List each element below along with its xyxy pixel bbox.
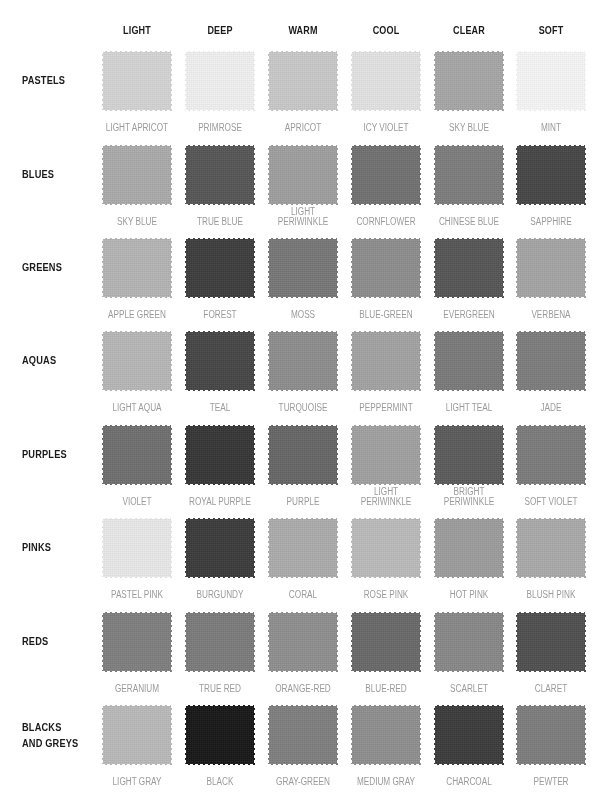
swatch-name: CORAL xyxy=(266,590,340,600)
pinked-edge-left xyxy=(101,144,104,206)
pinked-edge-right xyxy=(502,611,505,673)
swatch-name: LIGHT AQUA xyxy=(100,403,174,413)
swatch-texture xyxy=(433,50,505,112)
swatch-texture xyxy=(515,50,587,112)
color-swatch xyxy=(184,50,256,112)
color-swatch xyxy=(515,424,587,486)
swatch-texture xyxy=(350,50,422,112)
color-swatch xyxy=(184,330,256,392)
pinked-edge-right xyxy=(419,330,422,392)
color-swatch xyxy=(515,144,587,206)
swatch-texture xyxy=(515,330,587,392)
pinked-edge-left xyxy=(184,517,187,579)
swatch-texture xyxy=(350,704,422,766)
swatch-texture xyxy=(101,330,173,392)
color-swatch xyxy=(184,517,256,579)
swatch-texture xyxy=(350,237,422,299)
color-swatch xyxy=(350,611,422,673)
swatch-fabric xyxy=(433,424,505,486)
pinked-edge-right xyxy=(502,330,505,392)
pinked-edge-left xyxy=(101,517,104,579)
pinked-edge-left xyxy=(184,611,187,673)
color-swatch xyxy=(433,144,505,206)
swatch-name: LIGHT GRAY xyxy=(100,777,174,787)
swatch-fabric xyxy=(433,704,505,766)
pinked-edge-left xyxy=(101,237,104,299)
pinked-edge-right xyxy=(336,144,339,206)
row-label: AQUAS xyxy=(22,352,89,368)
color-swatch xyxy=(350,50,422,112)
pinked-edge-left xyxy=(515,704,518,766)
pinked-edge-left xyxy=(350,424,353,486)
swatch-name: TURQUOISE xyxy=(266,403,340,413)
pinked-edge-left xyxy=(101,50,104,112)
pinked-edge-left xyxy=(101,330,104,392)
pinked-edge-right xyxy=(419,237,422,299)
swatch-name: PEWTER xyxy=(514,777,588,787)
pinked-edge-right xyxy=(253,144,256,206)
pinked-edge-right xyxy=(253,611,256,673)
swatch-name: PURPLE xyxy=(266,497,340,507)
swatch-name: CHINESE BLUE xyxy=(432,217,506,227)
pinked-edge-left xyxy=(350,704,353,766)
swatch-name: CLARET xyxy=(514,684,588,694)
pinked-edge-right xyxy=(336,704,339,766)
pinked-edge-right xyxy=(502,517,505,579)
swatch-texture xyxy=(433,424,505,486)
color-swatch xyxy=(267,144,339,206)
pinked-edge-right xyxy=(584,517,587,579)
pinked-edge-right xyxy=(336,50,339,112)
pinked-edge-left xyxy=(350,611,353,673)
swatch-fabric xyxy=(350,611,422,673)
color-swatch xyxy=(515,611,587,673)
swatch-fabric xyxy=(267,704,339,766)
swatch-fabric xyxy=(101,517,173,579)
column-header-5: CLEAR xyxy=(439,24,498,36)
pinked-edge-left xyxy=(350,517,353,579)
swatch-texture xyxy=(433,517,505,579)
row-label: BLUES xyxy=(22,166,89,182)
swatch-name: MINT xyxy=(514,123,588,133)
swatch-texture xyxy=(267,144,339,206)
pinked-edge-left xyxy=(267,704,270,766)
swatch-texture xyxy=(101,144,173,206)
pinked-edge-right xyxy=(170,330,173,392)
pinked-edge-left xyxy=(433,237,436,299)
swatch-texture xyxy=(515,424,587,486)
color-swatch xyxy=(433,50,505,112)
swatch-name: BLUSH PINK xyxy=(514,590,588,600)
swatch-name: SOFT VIOLET xyxy=(514,497,588,507)
color-swatch xyxy=(267,50,339,112)
swatch-texture xyxy=(267,704,339,766)
pinked-edge-right xyxy=(419,50,422,112)
swatch-name: BRIGHT PERIWINKLE xyxy=(432,487,506,507)
swatch-fabric xyxy=(350,517,422,579)
pinked-edge-left xyxy=(433,330,436,392)
pinked-edge-right xyxy=(502,50,505,112)
pinked-edge-left xyxy=(515,611,518,673)
swatch-fabric xyxy=(515,704,587,766)
swatch-fabric xyxy=(267,144,339,206)
color-swatch xyxy=(267,611,339,673)
swatch-fabric xyxy=(433,144,505,206)
color-swatch xyxy=(515,704,587,766)
swatch-fabric xyxy=(101,50,173,112)
color-swatch xyxy=(350,144,422,206)
pinked-edge-right xyxy=(170,50,173,112)
pinked-edge-right xyxy=(170,611,173,673)
pinked-edge-right xyxy=(253,517,256,579)
swatch-fabric xyxy=(433,50,505,112)
color-swatch xyxy=(101,144,173,206)
swatch-texture xyxy=(433,330,505,392)
swatch-fabric xyxy=(515,424,587,486)
color-swatch xyxy=(515,237,587,299)
color-swatch xyxy=(433,330,505,392)
color-swatch xyxy=(101,330,173,392)
swatch-texture xyxy=(350,424,422,486)
pinked-edge-left xyxy=(350,330,353,392)
swatch-texture xyxy=(184,424,256,486)
column-header-1: LIGHT xyxy=(107,24,166,36)
swatch-fabric xyxy=(350,144,422,206)
swatch-fabric xyxy=(350,424,422,486)
pinked-edge-right xyxy=(502,424,505,486)
